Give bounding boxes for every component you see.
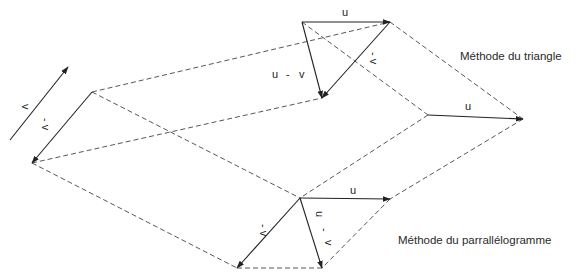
label-u-middle: u [465,100,471,112]
triangle-method: u - v u - v [272,6,390,98]
label-u-bottom: u [350,184,356,196]
label-minus-v-bottom: - v [258,224,270,237]
label-u-minus-v-bottom-v: v [323,240,335,246]
label-minus-v-top: - v [368,52,380,65]
label-u-top: u [342,6,348,18]
label-v: v [20,104,32,110]
vector-minus-v-left: - v [32,92,92,163]
label-u-minus-v-top: u [272,68,278,80]
vector-u-middle: u [428,100,523,119]
parallelogram-method: u - v u - v [237,184,390,268]
caption-parallelogram-method: Méthode du parrallélogramme [398,234,551,246]
label-u-minus-v-bottom-minus: - [319,228,331,232]
label-u-minus-v-top-v: v [299,68,305,80]
label-u-minus-v-bottom-u: u [314,211,326,217]
label-u-minus-v-top-minus: - [286,68,290,80]
construction-lines [32,22,523,268]
vector-v: v [10,67,68,140]
caption-triangle-method: Méthode du triangle [460,50,562,62]
label-minus-v-left: - v [40,118,52,131]
